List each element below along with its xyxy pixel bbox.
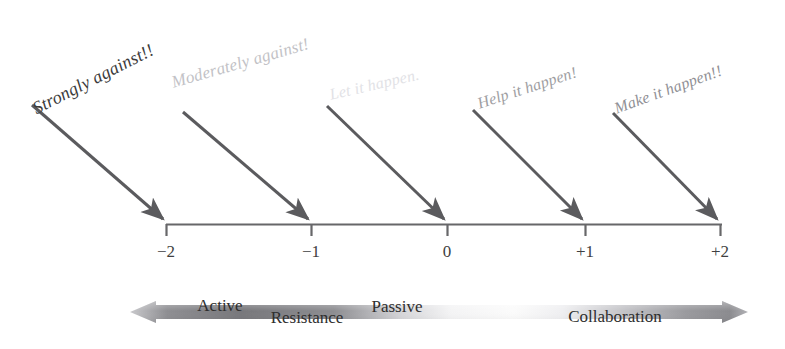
- band-label-passive: Passive: [372, 297, 423, 317]
- band-label-resistance: Resistance: [271, 308, 344, 328]
- band-label-collaboration: Collaboration: [568, 307, 661, 327]
- band-labels-layer: Active Resistance Passive Collaboration: [0, 0, 785, 349]
- band-label-active: Active: [197, 296, 242, 316]
- diagram-root: Strongly against!! Moderately against! L…: [0, 0, 785, 349]
